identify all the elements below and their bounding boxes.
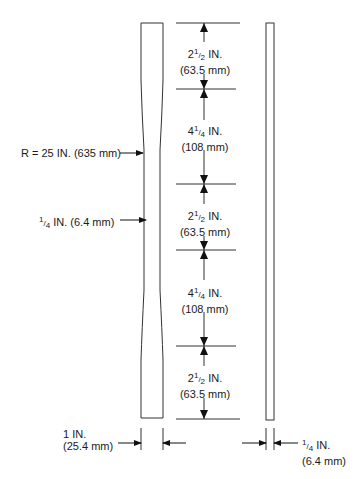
den: 2 (201, 215, 205, 224)
unit: IN. (208, 48, 222, 60)
specimen-side-view (266, 23, 274, 420)
unit: IN. (208, 287, 222, 299)
segment-label-1: 21/2 IN. (63.5 mm) (178, 46, 232, 76)
segment-label-3: 21/2 IN. (63.5 mm) (178, 208, 232, 238)
den: 2 (201, 377, 205, 386)
unit: IN. (208, 125, 222, 137)
line1: IN. (313, 439, 330, 451)
metric: (63.5 mm) (180, 64, 230, 76)
line1: 1 IN. (63, 428, 86, 440)
line2: (6.4 mm) (302, 455, 346, 467)
narrow-width-label: 1/4 IN. (6.4 mm) (39, 214, 114, 232)
segment-label-5: 21/2 IN. (63.5 mm) (178, 370, 232, 400)
narrow-width-text: IN. (6.4 mm) (50, 216, 114, 228)
radius-label: R = 25 IN. (635 mm) (21, 147, 121, 159)
metric: (108 mm) (181, 303, 228, 315)
den: 4 (201, 292, 205, 301)
unit: IN. (208, 372, 222, 384)
thickness-label: 1/4 IN. (6.4 mm) (302, 437, 346, 467)
segment-label-4: 41/4 IN. (108 mm) (178, 285, 232, 315)
metric: (63.5 mm) (180, 388, 230, 400)
metric: (108 mm) (181, 141, 228, 153)
unit: IN. (208, 210, 222, 222)
line2: (25.4 mm) (63, 440, 113, 452)
den: 2 (201, 53, 205, 62)
segment-label-2: 41/4 IN. (108 mm) (178, 123, 232, 153)
metric: (63.5 mm) (180, 226, 230, 238)
den: 4 (201, 130, 205, 139)
full-width-label: 1 IN. (25.4 mm) (63, 428, 113, 452)
